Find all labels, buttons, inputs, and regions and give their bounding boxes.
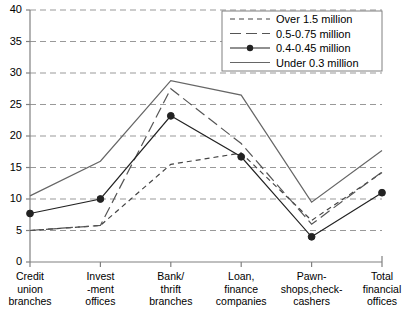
y-tick-label: 5 (4, 225, 22, 236)
x-tick-label: Total financial offices (339, 270, 406, 308)
y-tick-label: 10 (4, 193, 22, 204)
legend-label: 0.4-0.45 million (276, 42, 351, 54)
legend-label: Under 0.3 million (276, 57, 359, 69)
y-tick-label: 30 (4, 67, 22, 78)
y-tick-label: 35 (4, 36, 22, 47)
legend-label: 0.5-0.75 million (276, 28, 351, 40)
x-axis-ticks (30, 262, 382, 267)
chart-legend: Over 1.5 million0.5-0.75 million0.4-0.45… (222, 11, 382, 71)
y-tick-label: 25 (4, 99, 22, 110)
y-tick-label: 0 (4, 256, 22, 267)
y-tick-label: 15 (4, 162, 22, 173)
legend-label: Over 1.5 million (276, 13, 352, 25)
y-tick-label: 20 (4, 130, 22, 141)
y-tick-label: 40 (4, 4, 22, 15)
